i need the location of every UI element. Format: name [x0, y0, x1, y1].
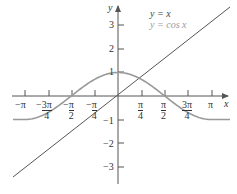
- y-axis-label: y: [108, 3, 112, 13]
- y-tick-label: −1: [103, 116, 114, 126]
- x-tick-label: 3π4: [182, 100, 192, 121]
- y-axis-arrow-icon: [115, 5, 121, 12]
- x-tick-label: π2: [161, 100, 166, 121]
- y-tick-label: 1: [109, 67, 114, 77]
- x-tick-label: π: [208, 100, 213, 110]
- x-axis-label: x: [224, 99, 228, 109]
- y-tick-label: −3: [103, 162, 114, 172]
- y-tick-label: 2: [109, 44, 114, 54]
- x-tick-label: −π: [15, 100, 26, 110]
- x-tick-label: −π4: [86, 100, 97, 121]
- series-line-y-equals-x: [13, 7, 230, 177]
- plot-area: [0, 0, 237, 194]
- legend-y-equals-x: y = x: [150, 8, 171, 19]
- legend-y-equals-cos-x: y = cos x: [150, 19, 186, 30]
- y-tick-label: 3: [109, 20, 114, 30]
- x-tick-label: −3π4: [36, 100, 52, 121]
- x-tick-label: −π2: [63, 100, 74, 121]
- x-tick-label: π4: [138, 100, 143, 121]
- y-tick-label: −2: [103, 139, 114, 149]
